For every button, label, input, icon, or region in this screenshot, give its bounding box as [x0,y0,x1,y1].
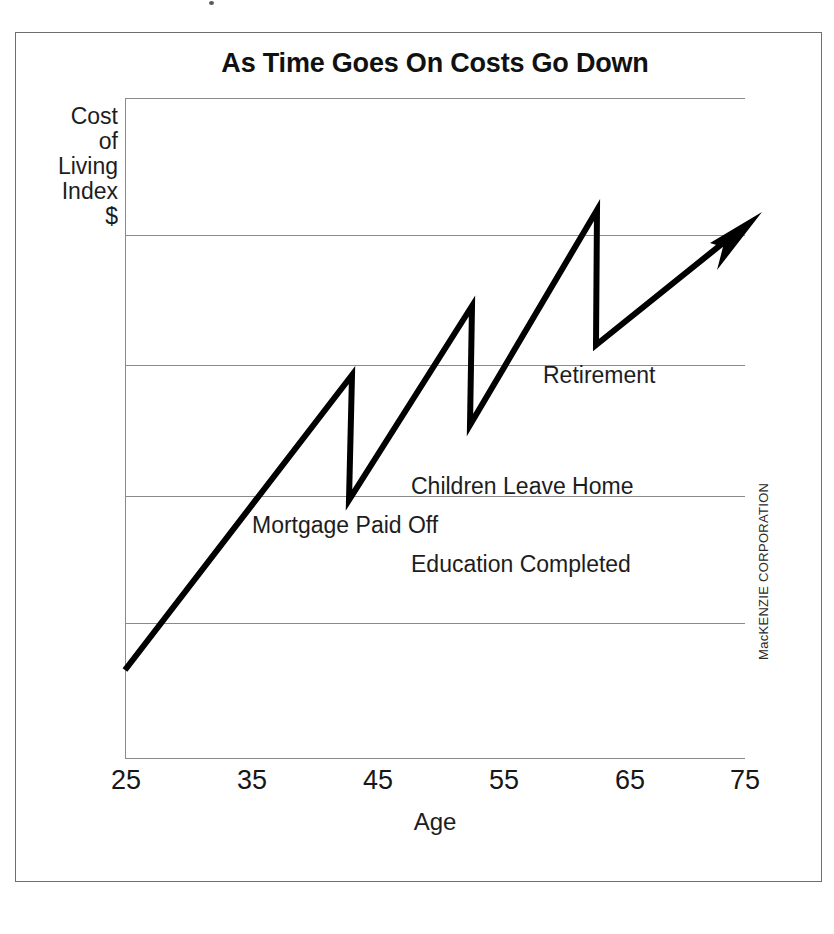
figure-page: As Time Goes On Costs Go Down Cost of Li… [0,0,834,934]
credit-line: MacKENZIE CORPORATION [756,440,771,660]
chart-title: As Time Goes On Costs Go Down [125,48,745,79]
y-axis-title-line-2: of [30,129,118,154]
x-tick-label-65: 65 [595,765,665,796]
x-tick-label-75: 75 [710,765,780,796]
annotation-education-completed: Education Completed [411,551,633,577]
x-axis-line [125,758,745,759]
x-tick-label-35: 35 [217,765,287,796]
annotation-children-leave-home: Children Leave Home [411,473,633,499]
x-tick-label-25: 25 [91,765,161,796]
y-axis-title-line-5: $ [30,204,118,229]
x-axis-title: Age [125,808,745,836]
x-tick-label-55: 55 [469,765,539,796]
y-axis-title: Cost of Living Index $ [30,104,118,229]
annotation-retirement: Retirement [543,362,655,388]
gridline-y-5 [125,98,745,99]
y-axis-title-line-1: Cost [30,104,118,129]
annotation-children-education: Children Leave Home Education Completed [411,421,633,629]
gridline-y-4 [125,235,745,236]
y-axis-title-line-4: Index [30,179,118,204]
x-tick-label-45: 45 [343,765,413,796]
scan-artifact-speck [209,1,214,5]
y-axis-title-line-3: Living [30,154,118,179]
